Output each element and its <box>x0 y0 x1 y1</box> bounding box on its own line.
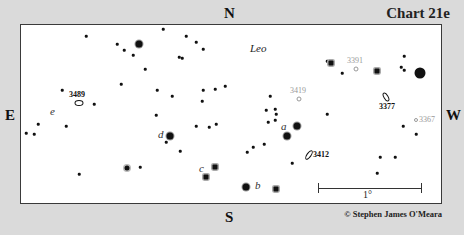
star-icon <box>195 41 198 44</box>
star-icon <box>139 166 142 169</box>
star-icon <box>125 166 130 171</box>
star-icon <box>403 55 406 58</box>
galaxy-3367-label: 3367 <box>419 115 435 124</box>
galaxy-3489-icon <box>75 100 84 106</box>
star-icon <box>202 89 205 92</box>
galaxy-3391-icon <box>354 67 359 72</box>
star-icon <box>202 48 205 51</box>
star-icon <box>65 125 68 128</box>
galaxy-3419-label: 3419 <box>290 86 306 95</box>
star-icon <box>274 108 277 111</box>
chart-title: Chart 21e <box>386 5 450 22</box>
star-icon <box>167 133 174 140</box>
star-icon <box>252 146 255 149</box>
star-icon <box>269 95 272 98</box>
star-icon <box>243 184 250 191</box>
star-icon <box>415 68 426 79</box>
star-icon <box>376 172 379 175</box>
star-icon <box>274 119 277 122</box>
star-icon <box>25 132 28 135</box>
star-label-c: c <box>199 162 204 174</box>
star-icon <box>403 69 406 72</box>
star-icon <box>294 123 301 130</box>
north-label: N <box>224 5 235 22</box>
galaxy-3419-icon <box>297 97 302 102</box>
galaxy-3377-label: 3377 <box>379 102 395 111</box>
star-icon <box>179 150 182 153</box>
star-icon <box>85 35 88 38</box>
star-icon <box>165 141 168 144</box>
star-icon <box>33 133 36 136</box>
star-icon <box>375 69 380 74</box>
star-icon <box>144 68 147 71</box>
star-icon <box>214 88 217 91</box>
star-icon <box>155 114 158 117</box>
star-icon <box>208 126 211 129</box>
star-icon <box>132 54 135 57</box>
copyright-credit: © Stephen James O'Meara <box>344 209 442 219</box>
star-icon <box>61 89 64 92</box>
star-icon <box>116 43 119 46</box>
star-icon <box>263 143 266 146</box>
star-icon <box>284 133 291 140</box>
star-icon <box>379 156 382 159</box>
star-icon <box>156 89 159 92</box>
star-icon <box>224 85 227 88</box>
star-icon <box>195 125 198 128</box>
star-field <box>20 24 442 204</box>
west-label: W <box>446 107 461 124</box>
galaxy-3391-label: 3391 <box>347 56 363 65</box>
star-label-b: b <box>255 179 261 191</box>
star-icon <box>394 156 397 159</box>
star-icon <box>326 113 329 116</box>
star-icon <box>274 187 279 192</box>
star-icon <box>246 151 249 154</box>
star-label-a: a <box>281 120 287 132</box>
star-icon <box>123 49 126 52</box>
star-icon <box>204 175 209 180</box>
star-label-e: e <box>50 105 55 117</box>
star-icon <box>93 103 96 106</box>
star-icon <box>415 133 418 136</box>
star-icon <box>201 100 204 103</box>
star-icon <box>329 61 334 66</box>
star-icon <box>291 162 294 165</box>
star-icon <box>162 28 165 31</box>
south-label: S <box>225 209 233 226</box>
star-icon <box>275 113 278 116</box>
star-icon <box>171 95 174 98</box>
star-icon <box>136 41 143 48</box>
scale-label: 1° <box>363 189 372 200</box>
star-icon <box>185 35 188 38</box>
galaxy-3367-icon <box>414 118 418 122</box>
star-icon <box>213 165 218 170</box>
galaxy-3489-label: 3489 <box>69 90 85 99</box>
constellation-label: Leo <box>250 42 267 54</box>
star-icon <box>265 109 268 112</box>
star-icon <box>267 121 270 124</box>
scale-tick <box>421 183 422 193</box>
star-icon <box>120 83 123 86</box>
star-icon <box>402 125 405 128</box>
galaxy-3412-label: 3412 <box>313 150 329 159</box>
star-label-d: d <box>158 128 164 140</box>
east-label: E <box>5 107 15 124</box>
star-icon <box>37 123 40 126</box>
chart-background: Chart 21e N S E W © Stephen James O'Mear… <box>0 0 464 235</box>
star-icon <box>78 173 81 176</box>
star-icon <box>215 123 218 126</box>
scale-line <box>318 188 421 189</box>
scale-tick <box>318 183 319 193</box>
star-icon <box>181 57 184 60</box>
star-icon <box>341 72 344 75</box>
star-icon <box>400 66 403 69</box>
